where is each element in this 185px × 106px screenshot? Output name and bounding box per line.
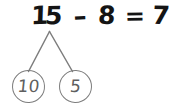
number-bond-part-right: 5 xyxy=(58,69,92,103)
number-bond-part-right-value: 5 xyxy=(58,71,92,102)
worksheet-canvas: 1 5 – 8 = 7 10 5 xyxy=(0,0,185,106)
left-branch-line xyxy=(29,32,50,72)
right-branch-line xyxy=(50,32,73,72)
number-bond-part-left-value: 10 xyxy=(11,71,45,102)
number-bond-part-left: 10 xyxy=(11,69,46,104)
